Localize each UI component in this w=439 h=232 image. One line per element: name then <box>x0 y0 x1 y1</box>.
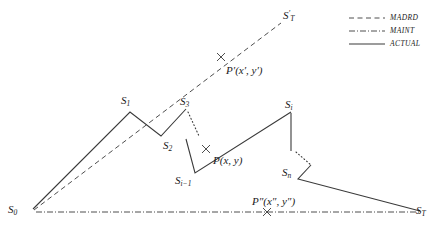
actual-dotted-si-sn <box>296 152 311 165</box>
node-label-st-prime: S′T <box>283 10 294 23</box>
actual-segment-s0-s3 <box>33 109 186 209</box>
schedule-deviation-diagram: S0 S1 S2 S3 Si−1 Si Sn ST S′T P(x, y) P′… <box>0 0 439 232</box>
node-label-si: Si <box>285 99 293 111</box>
node-label-si-minus-1: Si−1 <box>175 175 191 187</box>
actual-segment-sn-st <box>298 165 420 211</box>
actual-dotted-s3-gap <box>188 112 199 136</box>
point-label-p: P(x, y) <box>213 155 242 166</box>
diagram-canvas <box>0 0 439 232</box>
legend-label-maint: MAINT <box>390 27 415 35</box>
marker-p-prime-cross <box>217 53 225 61</box>
marker-p-cross <box>202 145 210 153</box>
point-label-p-double-prime: P″(x″, y″) <box>252 196 295 207</box>
node-label-s3: S3 <box>180 96 189 108</box>
node-label-st: ST <box>416 205 426 217</box>
node-label-sn: Sn <box>282 167 291 179</box>
point-label-p-prime: P′(x′, y′) <box>226 65 263 76</box>
legend-label-madrd: MADRD <box>390 14 418 22</box>
legend-label-actual: ACTUAL <box>390 40 420 48</box>
madrd-line <box>34 23 281 210</box>
node-label-s1: S1 <box>121 95 130 107</box>
node-label-s0: S0 <box>8 204 17 216</box>
node-label-s2: S2 <box>163 140 172 152</box>
